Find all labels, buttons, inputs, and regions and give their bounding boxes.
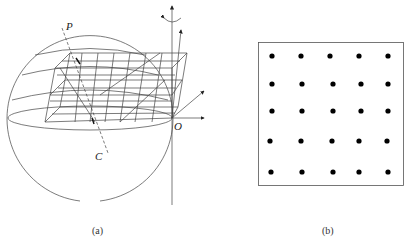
diagonal-axis	[172, 91, 204, 118]
figure-a-diagram	[0, 0, 240, 215]
label-o: O	[174, 120, 182, 132]
dot-array	[267, 53, 390, 174]
rotation-arrow-icon	[164, 18, 181, 22]
tilted-axis	[172, 30, 181, 118]
sphere-outline	[7, 36, 173, 201]
grid-slab	[45, 53, 187, 122]
dot-grid-box	[259, 43, 404, 186]
label-c: C	[95, 150, 102, 162]
label-p: P	[66, 20, 73, 32]
caption-a: (a)	[92, 225, 103, 236]
equator	[8, 106, 172, 130]
caption-b: (b)	[322, 225, 334, 236]
